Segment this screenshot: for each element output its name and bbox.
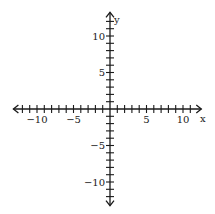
x-tick-label: 10 <box>177 114 190 125</box>
y-tick-label: −5 <box>90 140 105 151</box>
y-axis-label: y <box>113 14 120 25</box>
coordinate-plane: −10−5510 105−5−10 x y <box>0 0 215 214</box>
y-tick-label: −10 <box>84 177 105 188</box>
y-tick-label: 10 <box>92 31 105 42</box>
x-axis-label: x <box>200 113 206 124</box>
x-tick-label: 5 <box>143 114 149 125</box>
y-tick-label: 5 <box>99 67 105 78</box>
x-tick-label: −10 <box>26 114 47 125</box>
x-axis <box>13 105 201 113</box>
x-tick-label: −5 <box>66 114 81 125</box>
